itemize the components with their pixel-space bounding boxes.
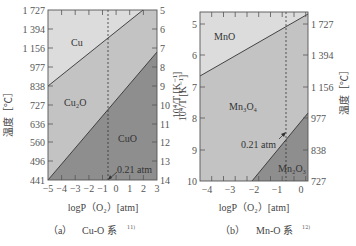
tick-label: 2: [141, 183, 146, 194]
caption-a-ref: 11): [127, 224, 135, 230]
tick-label: 1 394: [23, 24, 46, 35]
panel-b-mn-o: 5 6 7 8 9 10 1 727 1 394 1 156 977 838 7…: [177, 12, 350, 236]
figure-canvas: 1 727 1 394 1 156 977 838 727 636 560 49…: [0, 0, 356, 246]
tick-label: 727: [30, 100, 45, 111]
caption-a-text: Cu-O 系: [82, 225, 117, 236]
tick-label: −2: [84, 183, 95, 194]
tick-label: 14: [160, 175, 170, 186]
tick-label: 3: [155, 183, 160, 194]
tick-label: 10: [187, 176, 197, 187]
tick-label: 6: [192, 50, 197, 61]
tick-label: −1: [97, 183, 108, 194]
region-label-mn2o3: Mn₂O₃: [278, 163, 306, 174]
tick-label: 8: [160, 62, 165, 73]
panel-a-cu-o: 1 727 1 394 1 156 977 838 727 636 560 49…: [2, 5, 182, 236]
annotation-0-21-atm: 0.21 atm: [241, 139, 276, 150]
tick-label: 7: [192, 82, 197, 93]
left-tick-labels-b: 5 6 7 8 9 10: [187, 19, 197, 187]
x-axis-label-a: logP（O₂）[atm]: [68, 202, 139, 213]
tick-label: −5: [43, 183, 54, 194]
caption-a-label: （a）: [48, 225, 72, 236]
region-label-mno: MnO: [214, 31, 235, 42]
tick-label: 10: [160, 100, 170, 111]
tick-label: 1: [127, 183, 132, 194]
tick-label: 838: [30, 81, 45, 92]
tick-label: 11: [160, 119, 170, 130]
x-tick-labels-b: −4 −3 −2 −1 0: [202, 184, 304, 195]
tick-label: 560: [30, 137, 45, 148]
caption-b-label: （b）: [220, 225, 245, 236]
tick-label: 9: [192, 145, 197, 156]
region-label-cu2o: Cu₂O: [64, 97, 86, 108]
tick-label: 977: [30, 62, 45, 73]
tick-label: 1 394: [311, 50, 334, 61]
tick-label: 0: [114, 183, 119, 194]
tick-label: 1 727: [311, 19, 334, 30]
annotation-0-21-atm: 0.21 atm: [117, 164, 152, 175]
tick-label: 13: [160, 156, 170, 167]
tick-label: 5: [160, 5, 165, 16]
tick-label: −4: [202, 184, 213, 195]
tick-label: 9: [160, 81, 165, 92]
tick-label: 1 156: [23, 43, 46, 54]
x-axis-label-b: logP（O₂）[atm]: [219, 202, 290, 213]
caption-b-text: Mn-O 系: [256, 225, 293, 236]
region-label-cuo: CuO: [118, 133, 137, 144]
tick-label: 12: [160, 137, 170, 148]
tick-label: 496: [30, 156, 45, 167]
y-axis-label-left-a: 温度［℃］: [2, 87, 14, 137]
tick-label: −3: [70, 183, 81, 194]
tick-label: 977: [311, 113, 326, 124]
right-tick-labels-b: 1 727 1 394 1 156 977 838 727: [311, 19, 334, 187]
tick-label: 1 727: [23, 5, 46, 16]
tick-label: −4: [56, 183, 67, 194]
tick-label: 0: [299, 184, 304, 195]
tick-label: 1 156: [311, 82, 334, 93]
tick-label: 8: [192, 113, 197, 124]
x-tick-labels-a: −5 −4 −3 −2 −1 0 1 2 3: [43, 183, 160, 194]
y-axis-label-right-b: 温度［℃］: [338, 65, 350, 115]
left-tick-labels-a: 1 727 1 394 1 156 977 838 727 636 560 49…: [23, 5, 46, 186]
tick-label: 5: [192, 19, 197, 30]
tick-label: 636: [30, 119, 45, 130]
tick-label: 838: [311, 145, 326, 156]
region-label-mn3o4: Mn₃O₄: [229, 101, 258, 112]
tick-label: −1: [272, 184, 283, 195]
tick-label: 7: [160, 43, 165, 54]
tick-label: 727: [311, 176, 326, 187]
caption-b-ref: 12): [302, 224, 310, 230]
tick-label: −2: [249, 184, 260, 195]
tick-label: 6: [160, 24, 165, 35]
y-axis-label-left-b: 10⁴/T [K⁻¹]: [177, 75, 188, 122]
right-tick-labels-a: 5 6 7 8 9 10 11 12 13 14: [160, 5, 170, 186]
tick-label: −3: [225, 184, 236, 195]
region-label-cu: Cu: [71, 37, 83, 48]
